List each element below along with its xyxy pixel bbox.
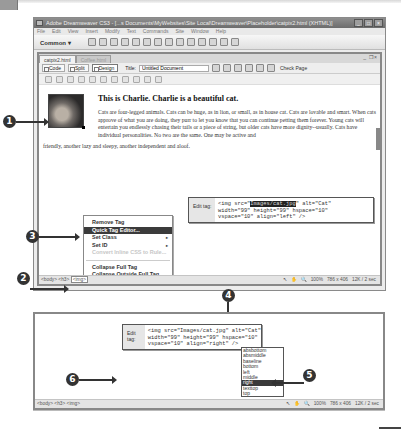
save-all-icon[interactable] <box>89 76 96 83</box>
tag-selector[interactable]: <body> <h3> <img> <box>37 400 80 408</box>
quick-tag-label: Edit tag: <box>123 325 145 349</box>
email-link-icon[interactable] <box>99 38 107 46</box>
menu-file[interactable]: File <box>37 28 45 35</box>
copy-icon[interactable] <box>122 76 129 83</box>
callout-3: 3 <box>26 230 39 243</box>
named-anchor-icon[interactable] <box>110 38 118 46</box>
menu-text[interactable]: Text <box>127 28 136 35</box>
split-view-button[interactable]: Split <box>68 64 89 72</box>
print-icon[interactable] <box>100 76 107 83</box>
callout-5: 5 <box>303 369 316 382</box>
zoom-tool-icon[interactable]: 🔍 <box>301 276 307 284</box>
cat-image[interactable] <box>48 94 84 128</box>
design-view[interactable]: This is Charlie. Charlie is a beautiful … <box>39 85 380 259</box>
tag-h3[interactable]: <h3> <box>58 277 69 282</box>
open-icon[interactable] <box>56 76 63 83</box>
window-size[interactable]: 786 x 406 <box>327 276 348 284</box>
menu-edit[interactable]: Edit <box>52 28 61 35</box>
insert-category-dropdown[interactable]: Common ▾ <box>40 39 71 46</box>
cut-icon[interactable] <box>111 76 118 83</box>
layer-icon[interactable] <box>132 38 140 46</box>
menu-item-collapse-full-tag[interactable]: Collapse Full Tag <box>84 264 172 272</box>
zoom-level[interactable]: 100% <box>314 400 326 408</box>
document-toolbar: Code Split Design Title: Check Page <box>39 63 380 74</box>
hyperlink-icon[interactable] <box>88 38 96 46</box>
save-icon[interactable] <box>78 76 85 83</box>
zoom-tool-icon[interactable]: 🔍 <box>304 400 310 408</box>
qt-selected-src[interactable]: Images/cat.jpg <box>250 201 295 207</box>
design-view-button[interactable]: Design <box>92 64 119 72</box>
menu-item-set-id[interactable]: Set ID▸ <box>84 242 172 250</box>
dreamweaver-app-icon <box>36 20 43 26</box>
menu-modify[interactable]: Modify <box>105 28 120 35</box>
tab-catpix2[interactable]: catpix2.html <box>39 55 76 63</box>
browse-bridge-icon[interactable] <box>67 76 74 83</box>
menu-item-remove-tag[interactable]: Remove Tag <box>84 219 172 227</box>
server-side-include-icon[interactable] <box>176 38 184 46</box>
quick-tag-code[interactable]: <img src="Images/cat.jpg" alt="Cat" widt… <box>145 325 261 349</box>
tag-body[interactable]: <body> <box>41 277 57 282</box>
window-controls: _ □ × <box>354 19 383 27</box>
script-icon[interactable] <box>209 38 217 46</box>
menu-site[interactable]: Site <box>175 28 184 35</box>
view-options-icon[interactable] <box>245 64 253 72</box>
table-icon[interactable] <box>121 38 129 46</box>
check-page-button[interactable]: Check Page <box>280 65 307 71</box>
qt-line1-pre: <img src=" <box>218 201 250 207</box>
tab-coffee[interactable]: Coffee.html <box>76 55 111 63</box>
close-button[interactable]: × <box>374 19 383 27</box>
select-tool-icon[interactable]: ↖ <box>286 400 290 408</box>
select-tool-icon[interactable]: ↖ <box>283 276 287 284</box>
tag-context-menu: Remove Tag Quick Tag Editor... Set Class… <box>83 215 173 279</box>
callout-2-arrow <box>30 288 66 290</box>
date-icon[interactable] <box>165 38 173 46</box>
menu-item-quick-tag-editor[interactable]: Quick Tag Editor... <box>84 227 172 235</box>
validate-markup-icon[interactable] <box>267 64 275 72</box>
refresh-icon[interactable] <box>234 64 242 72</box>
visual-aids-icon[interactable] <box>256 64 264 72</box>
document-title-input[interactable] <box>139 65 209 72</box>
submenu-arrow-icon: ▸ <box>166 234 168 242</box>
menu-commands[interactable]: Commands <box>143 28 169 35</box>
undo-icon[interactable] <box>144 76 151 83</box>
qt-line2: width="99" height="99" hspace="10" <box>218 208 328 214</box>
tag-selector: <body> <h3> <img> <box>41 276 88 284</box>
tag-chooser-icon[interactable] <box>231 38 239 46</box>
preview-browser-icon[interactable] <box>223 64 231 72</box>
paste-icon[interactable] <box>133 76 140 83</box>
menu-item-label: Remove Tag <box>92 219 124 225</box>
menu-item-set-class[interactable]: Set Class▸ <box>84 234 172 242</box>
standard-toolbar <box>39 74 380 85</box>
paragraph-text-tail: friendly, another lazy and sleepy, anoth… <box>43 143 378 151</box>
new-icon[interactable] <box>45 76 52 83</box>
hand-tool-icon[interactable]: ✋ <box>294 400 300 408</box>
window-size[interactable]: 786 x 406 <box>330 400 351 408</box>
design-view-detail: Edit tag: <img src="Images/cat.jpg" alt=… <box>33 312 385 410</box>
menu-view[interactable]: View <box>68 28 79 35</box>
menu-window[interactable]: Window <box>191 28 209 35</box>
redo-icon[interactable] <box>155 76 162 83</box>
status-bar: <body> <h3> <img> ↖ ✋ 🔍 100% 786 x 406 1… <box>39 275 380 284</box>
quick-tag-editor[interactable]: Edit tag: <img src="Images/cat.jpg" alt=… <box>188 197 374 223</box>
menu-help[interactable]: Help <box>216 28 226 35</box>
templates-icon[interactable] <box>220 38 228 46</box>
status-info: ↖ ✋ 🔍 100% 786 x 406 12K / 2 sec <box>286 400 379 408</box>
tag-img[interactable]: <img> <box>71 276 88 283</box>
align-option-top[interactable]: top <box>242 391 283 396</box>
status-bar-detail: <body> <h3> <img> ↖ ✋ 🔍 100% 786 x 406 1… <box>35 399 383 408</box>
maximize-button[interactable]: □ <box>364 19 373 27</box>
images-icon[interactable] <box>143 38 151 46</box>
media-icon[interactable] <box>154 38 162 46</box>
quick-tag-code[interactable]: <img src="Images/cat.jpg" alt="Cat" widt… <box>215 198 331 222</box>
file-management-icon[interactable] <box>212 64 220 72</box>
document-window-controls[interactable]: _ ❐ × <box>363 54 377 60</box>
scrollbar-thumb[interactable] <box>376 128 380 150</box>
menu-insert[interactable]: Insert <box>85 28 98 35</box>
head-icon[interactable] <box>198 38 206 46</box>
zoom-level[interactable]: 100% <box>311 276 323 284</box>
minimize-button[interactable]: _ <box>354 19 363 27</box>
code-view-button[interactable]: Code <box>42 64 65 72</box>
hand-tool-icon[interactable]: ✋ <box>291 276 297 284</box>
align-hint-dropdown[interactable]: absbottom absmiddle baseline bottom left… <box>241 347 284 397</box>
comment-icon[interactable] <box>187 38 195 46</box>
